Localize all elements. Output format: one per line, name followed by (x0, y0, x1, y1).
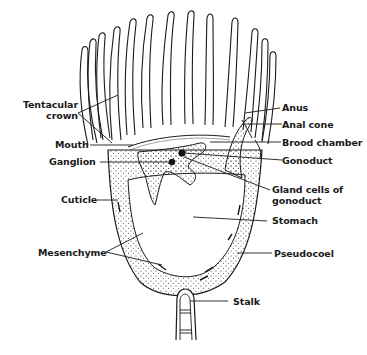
label-tentacular-crown: Tentacular crown (18, 99, 78, 121)
label-anal-cone: Anal cone (282, 119, 334, 130)
entoproct-diagram (0, 0, 367, 355)
label-tentacular-crown-line2: crown (18, 110, 78, 121)
label-gonoduct: Gonoduct (282, 155, 333, 166)
label-ganglion: Ganglion (49, 156, 96, 167)
label-anus: Anus (282, 102, 308, 113)
label-stomach: Stomach (272, 215, 318, 226)
label-mesenchyme: Mesenchyme (38, 247, 107, 258)
label-brood-chamber: Brood chamber (282, 137, 362, 148)
label-gland-cells-line2: gonoduct (272, 195, 343, 206)
label-mouth: Mouth (55, 139, 89, 150)
label-stalk: Stalk (233, 296, 260, 307)
stalk (176, 289, 196, 340)
label-pseudocoel: Pseudocoel (274, 248, 334, 259)
label-tentacular-crown-line1: Tentacular (18, 99, 78, 110)
label-gland-cells: Gland cells of gonoduct (272, 184, 343, 206)
label-gland-cells-line1: Gland cells of (272, 184, 343, 195)
label-cuticle: Cuticle (61, 194, 97, 205)
